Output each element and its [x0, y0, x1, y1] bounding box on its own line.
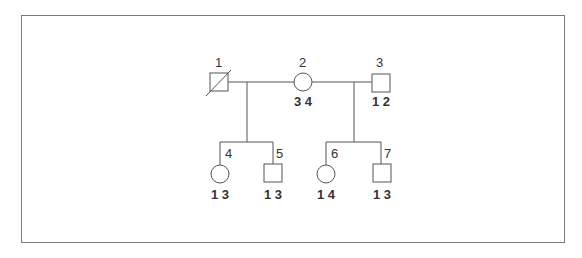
- id-label-7: 7: [384, 146, 391, 161]
- female-symbol-6: [317, 165, 335, 183]
- genotype-label-3: 1 2: [372, 94, 390, 109]
- id-label-4: 4: [225, 146, 232, 161]
- male-symbol-7: [373, 164, 391, 182]
- genotype-label-7: 1 3: [373, 187, 391, 202]
- id-label-5: 5: [276, 146, 283, 161]
- male-symbol-3: [372, 74, 390, 92]
- id-label-2: 2: [299, 55, 306, 70]
- id-label-6: 6: [331, 146, 338, 161]
- pedigree-diagram: 1 2 3 4 5 6 7 3 4 1 2 1 3 1 3 1 4 1 3: [0, 0, 582, 258]
- female-symbol-4: [211, 165, 229, 183]
- male-symbol-5: [264, 164, 282, 182]
- genotype-label-5: 1 3: [264, 187, 282, 202]
- id-label-1: 1: [215, 55, 222, 70]
- genotype-label-4: 1 3: [211, 187, 229, 202]
- id-label-3: 3: [376, 55, 383, 70]
- genotype-label-2: 3 4: [294, 94, 313, 109]
- female-symbol-2: [294, 73, 312, 91]
- genotype-label-6: 1 4: [317, 187, 336, 202]
